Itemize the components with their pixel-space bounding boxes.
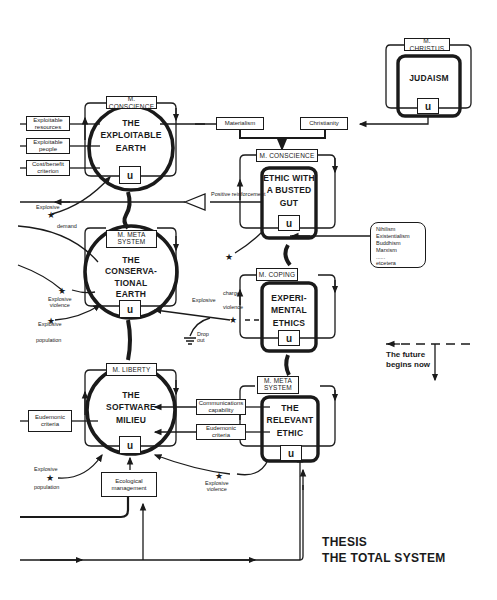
svg-text:★: ★ [58, 286, 66, 296]
title-line: EXPLOITABLE [96, 129, 166, 141]
judaism-title: JUDAISM [398, 72, 460, 84]
u-label: u [127, 440, 133, 451]
m-liberty-box: M. LIBERTY [106, 363, 157, 376]
future-begins-now-label: The future begins now [386, 350, 430, 371]
m-conscience-label-2: M. CONSCIENCE [260, 152, 315, 159]
u-label: u [127, 170, 133, 181]
diagram-title: THESIS THE TOTAL SYSTEM [322, 534, 445, 566]
u-box-experimental: u [278, 330, 300, 346]
violence-text: violence [48, 303, 72, 309]
exploitable-resources-label: Exploitable resources [28, 117, 68, 130]
title-line: SOFTWARE [96, 401, 166, 413]
list-item: Buddhism [376, 240, 420, 247]
u-label: u [127, 304, 133, 315]
m-conscience-label-1: M. CONSCIENCE [108, 95, 155, 109]
explosive-text: Explosive [192, 297, 216, 303]
list-item: Nihilism [376, 226, 420, 233]
title-line: MILIEU [96, 414, 166, 426]
u-box-conservational: u [119, 300, 141, 318]
m-conscience-box-2: M. CONSCIENCE [256, 149, 318, 162]
svg-text:★: ★ [225, 252, 233, 262]
u-box-relevant: u [280, 445, 302, 461]
m-meta-system-box-2: M. META SYSTEM [257, 376, 299, 394]
m-coping-label: M. COPING [259, 271, 295, 278]
future-line-2: begins now [386, 360, 430, 370]
title-line: ETHICS [258, 317, 320, 329]
drop-out-label: Drop out [197, 332, 209, 344]
svg-text:★: ★ [229, 315, 237, 325]
total-system-diagram: ★ ★ ★ ★ ★ ★ ★ Exploitable resources Expl… [0, 0, 497, 600]
title-line: GUT [258, 197, 320, 209]
exploitable-people-box: Exploitable people [26, 138, 70, 154]
ideologies-list-box: Nihilism Existentialism Buddhism Marxism… [370, 222, 426, 268]
communications-capability-label: Communications capability [198, 400, 244, 413]
eudemonic-criteria-box-1: Eudemonic criteria [28, 410, 72, 432]
exploitable-resources-box: Exploitable resources [26, 116, 70, 131]
m-christus-box: M. CHRISTUS [404, 38, 450, 51]
explosive-population-label-2b: population [34, 485, 59, 491]
ethic-busted-gut-title: ETHIC WITH A BUSTED GUT [258, 172, 320, 209]
svg-text:★: ★ [47, 210, 55, 220]
u-box-exploitable: u [119, 166, 141, 184]
explosive-demand-label-2: demand [57, 224, 77, 230]
exploitable-earth-title: THE EXPLOITABLE EARTH [96, 117, 166, 154]
materialism-label: Materialism [225, 120, 256, 127]
title-line: EXPERI- [258, 292, 320, 304]
list-item: ...... [376, 254, 420, 261]
cost-benefit-label: Cost/benefit criterion [28, 161, 68, 174]
explosive-population-label-1: Explosive [38, 322, 62, 328]
title-line-1: THESIS [322, 534, 445, 550]
explosive-text: Explosive [36, 204, 60, 210]
out-text: out [197, 338, 209, 344]
list-item: Existentialism [376, 233, 420, 240]
u-label: u [288, 448, 294, 459]
cost-benefit-box: Cost/benefit criterion [26, 160, 70, 176]
communications-capability-box: Communications capability [196, 399, 246, 415]
explosive-violence-label-2: Explosive violence [205, 481, 229, 493]
relevant-ethic-title: THE RELEVANT ETHIC [258, 402, 322, 439]
title-line: THE [96, 255, 166, 266]
eudemonic-criteria-box-2: Eudemonic criteria [196, 424, 246, 440]
m-meta-system-label-1: M. META SYSTEM [108, 232, 155, 246]
future-line-1: The future [386, 350, 430, 360]
title-line: THE [96, 389, 166, 401]
explosive-text: Explosive [38, 322, 62, 328]
list-item: etcetera [376, 260, 420, 267]
list-item: Marxism [376, 247, 420, 254]
violence-label: violence [223, 305, 243, 311]
title-line: MENTAL [258, 304, 320, 316]
conservational-earth-title: THE CONSERVA- TIONAL EARTH [96, 255, 166, 301]
m-liberty-label: M. LIBERTY [112, 366, 150, 373]
ecological-management-box: Ecological management [101, 472, 157, 497]
m-conscience-box-1: M. CONSCIENCE [106, 96, 157, 109]
title-line: ETHIC [258, 427, 322, 439]
title-line: ETHIC WITH [258, 172, 320, 184]
svg-text:★: ★ [46, 473, 54, 483]
explosive-demand-label-1: Explosive [36, 205, 60, 211]
exploitable-people-label: Exploitable people [28, 139, 68, 152]
m-coping-box: M. COPING [256, 268, 298, 281]
materialism-box: Materialism [216, 117, 264, 130]
u-label: u [425, 101, 431, 112]
m-meta-system-box-1: M. META SYSTEM [106, 230, 157, 248]
explosive-text: Explosive [34, 466, 58, 472]
u-label: u [286, 333, 292, 344]
title-line-2: THE TOTAL SYSTEM [322, 550, 445, 566]
diagram-connectors: ★ ★ ★ ★ ★ ★ ★ [0, 0, 497, 600]
title-line: A BUSTED [258, 184, 320, 196]
title-line: CONSERVA- [96, 266, 166, 277]
charge-text: charge [223, 290, 240, 296]
software-milieu-title: THE SOFTWARE MILIEU [96, 389, 166, 426]
explosive-charge-label: Explosive [192, 298, 216, 304]
experimental-ethics-title: EXPERI- MENTAL ETHICS [258, 292, 320, 329]
eudemonic-criteria-label-2: Eudemonic criteria [198, 425, 244, 438]
u-label: u [286, 218, 292, 229]
title-line: THE [96, 117, 166, 129]
title-line: JUDAISM [398, 72, 460, 84]
violence-text: violence [205, 487, 229, 493]
violence-text: violence [223, 304, 243, 310]
christianity-box: Christianity [300, 117, 348, 130]
title-line: RELEVANT [258, 414, 322, 426]
ecological-management-label: Ecological management [103, 478, 155, 491]
m-christus-label: M. CHRISTUS [406, 37, 448, 51]
